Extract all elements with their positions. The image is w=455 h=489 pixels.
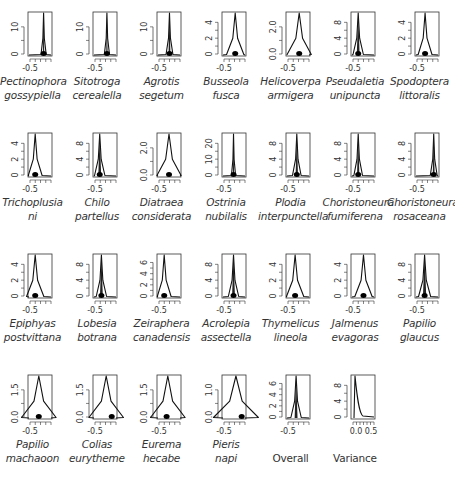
x-tick-label: -0.5 — [151, 64, 167, 73]
species-label-line1: Pseudaletia — [323, 74, 388, 88]
y-tick-label: 4 — [398, 157, 407, 162]
x-tick-label: -0.5 — [87, 185, 103, 194]
density-curve — [88, 376, 123, 418]
x-tick-label: -0.5 — [345, 64, 361, 73]
x-tick-label: -0.5 — [409, 306, 425, 315]
species-label: Pierisnapi — [194, 437, 259, 465]
density-curve — [287, 134, 309, 176]
density-plot: 0.01.5-0.5 — [65, 363, 130, 438]
y-tick-label: 0.0 — [269, 48, 278, 61]
species-label: Thymelicuslineola — [258, 316, 323, 344]
species-label-line2: segetum — [129, 88, 194, 102]
y-tick-label: 4 — [205, 20, 214, 25]
estimate-dot — [296, 51, 302, 56]
species-label-line1: Acrolepia — [194, 316, 259, 330]
density-plot: 024-0.5 — [0, 121, 65, 196]
estimate-dot — [41, 51, 47, 56]
species-label: Zeirapheracanadensis — [129, 316, 194, 344]
density-plot: 0.01.5-0.5 — [129, 363, 194, 438]
y-tick-label: 4 — [76, 278, 85, 283]
density-plot: 048-0.5 — [194, 242, 259, 317]
estimate-dot — [238, 414, 244, 419]
y-tick-label: 1.5 — [140, 383, 149, 396]
species-label-line2: eurytheme — [65, 451, 130, 465]
estimate-dot — [36, 414, 42, 419]
species-label: Pectinophoragossypiella — [0, 74, 65, 102]
y-tick-label: 0 — [398, 172, 407, 177]
density-plot: 0.01.0-0.5 — [194, 363, 259, 438]
estimate-dot — [32, 293, 38, 298]
species-label: Choristoneurarosaceana — [387, 195, 452, 223]
density-plot: 0246-0.5 — [129, 242, 194, 317]
species-label: Lobesiabotrana — [65, 316, 130, 344]
plot-frame — [157, 133, 181, 177]
species-label: Jalmenusevagoras — [323, 316, 388, 344]
plot-panel: 048-0.5Pseudaletiaunipuncta — [323, 0, 388, 120]
density-plot: 048-0.5 — [323, 121, 388, 196]
y-tick-label: 0 — [76, 51, 85, 56]
y-tick-label: 2 — [11, 278, 20, 283]
species-label: Variance — [323, 451, 388, 465]
x-tick-label: -0.5 — [409, 64, 425, 73]
estimate-dot — [96, 172, 102, 177]
species-label-line2: napi — [194, 451, 259, 465]
estimate-dot — [161, 293, 167, 298]
density-curve — [94, 255, 116, 297]
species-label-line1: Spodoptera — [387, 74, 452, 88]
estimate-dot — [422, 293, 428, 298]
plot-panel: 010-0.5Sitotrogacerealella — [65, 0, 130, 120]
species-label-line2: partellus — [65, 209, 130, 223]
y-tick-label: 4 — [11, 141, 20, 146]
plot-panel: 024-0.5Busseolafusca — [194, 0, 259, 120]
y-tick-label: 0.0 — [205, 411, 214, 424]
estimate-dot — [98, 293, 104, 298]
y-tick-label: 0 — [11, 172, 20, 177]
y-tick-label: 4 — [269, 392, 278, 397]
estimate-dot — [355, 172, 361, 177]
y-tick-label: 4 — [269, 157, 278, 162]
y-tick-label: 8 — [269, 141, 278, 146]
y-tick-label: 0 — [269, 414, 278, 419]
species-label: Chilopartellus — [65, 195, 130, 223]
y-tick-label: 4 — [205, 278, 214, 283]
y-tick-label: 0 — [205, 172, 214, 177]
species-label-line1: Thymelicus — [258, 316, 323, 330]
y-tick-label: 2 — [334, 278, 343, 283]
species-label-line2: machaoon — [0, 451, 65, 465]
density-plot: 0.01.5-0.5 — [0, 363, 65, 438]
y-tick-label: 2 — [269, 403, 278, 408]
species-label-line2: gossypiella — [0, 88, 65, 102]
y-tick-label: 10 — [76, 22, 85, 32]
y-tick-label: 1.0 — [205, 383, 214, 396]
y-tick-label: 4 — [398, 278, 407, 283]
density-plot: 024-0.5 — [258, 242, 323, 317]
density-curve — [352, 255, 374, 297]
species-label: Euremahecabe — [129, 437, 194, 465]
plot-panel: 024-0.5Thymelicuslineola — [258, 242, 323, 362]
species-label-line2: interpunctella — [258, 209, 323, 223]
density-plot: 048-0.5 — [387, 121, 452, 196]
plot-panel: 0.01.0-0.5Pierisnapi — [194, 363, 259, 483]
y-tick-label: 1.5 — [11, 383, 20, 396]
estimate-dot — [103, 51, 109, 56]
density-curve — [354, 376, 374, 418]
x-tick-label: -0.5 — [409, 185, 425, 194]
y-tick-label: 4 — [140, 271, 149, 276]
density-curve — [223, 13, 245, 55]
density-plot: 048-0.5 — [65, 242, 130, 317]
estimate-dot — [108, 414, 114, 419]
species-label: Diatraeaconsiderata — [129, 195, 194, 223]
y-tick-label: 0 — [140, 51, 149, 56]
y-tick-label: 8 — [398, 262, 407, 267]
estimate-dot — [422, 51, 428, 56]
y-tick-label: 0 — [334, 51, 343, 56]
species-label-line2: hecabe — [129, 451, 194, 465]
plot-panel: 01020-0.5Ostrinianubilalis — [194, 121, 259, 241]
species-label: Papiliomachaoon — [0, 437, 65, 465]
y-tick-label: 4 — [76, 157, 85, 162]
species-label-line1: Pectinophora — [0, 74, 65, 88]
y-tick-label: 0 — [334, 172, 343, 177]
y-tick-label: 8 — [334, 383, 343, 388]
y-tick-label: 0 — [11, 51, 20, 56]
density-plot: 024-0.5 — [323, 242, 388, 317]
